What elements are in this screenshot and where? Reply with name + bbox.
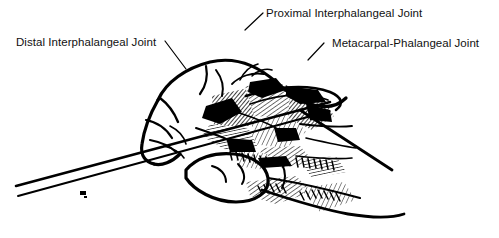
label-proximal-interphalangeal-joint: Proximal Interphalangeal Joint <box>266 7 422 20</box>
label-distal-interphalangeal-joint: Distal Interphalangeal Joint <box>16 36 156 49</box>
finger-joint-anatomy-figure: Distal Interphalangeal Joint Proximal In… <box>0 0 499 238</box>
label-metacarpal-phalangeal-joint: Metacarpal-Phalangeal Joint <box>332 37 479 50</box>
